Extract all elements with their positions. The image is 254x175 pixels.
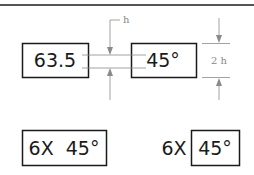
box-value-63-5: 63.5: [23, 44, 89, 78]
prefix-6x: 6X: [161, 137, 186, 159]
dimension-diagram: 63.5 45° h 2 h 6X 45° 6X 45°: [0, 0, 254, 175]
h-dimension: [107, 20, 120, 100]
h-label: h: [123, 14, 130, 25]
box-text-45-deg: 45°: [146, 49, 180, 71]
text-height-guides: [82, 55, 146, 68]
box-value-45-deg: 45°: [132, 44, 197, 78]
box-45-deg-separate: 45°: [192, 131, 240, 166]
box-text-63-5: 63.5: [34, 49, 76, 71]
box-text-6x-45: 6X 45°: [29, 137, 100, 159]
box-6x-45-combined: 6X 45°: [23, 131, 107, 166]
2h-label: 2 h: [211, 55, 228, 66]
box-text-45-deg-separate: 45°: [198, 137, 232, 159]
